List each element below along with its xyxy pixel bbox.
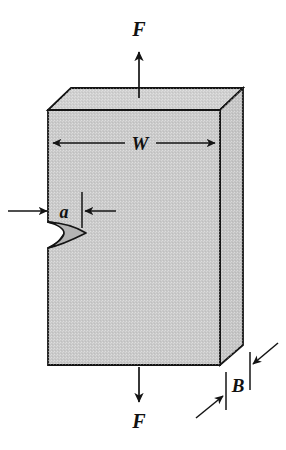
thickness-label: B [231, 375, 245, 396]
plate-solid [48, 88, 243, 365]
force-top-label: F [131, 18, 146, 40]
force-bottom-label: F [131, 410, 146, 432]
plate-side-face [220, 88, 243, 365]
crack-length-label: a [60, 202, 69, 222]
figure-edge-cracked-plate: F F W a B [0, 0, 286, 450]
plate-top-face [48, 88, 243, 110]
top-face-texture [48, 88, 243, 110]
width-label: W [132, 133, 150, 154]
side-face-texture [220, 88, 243, 365]
